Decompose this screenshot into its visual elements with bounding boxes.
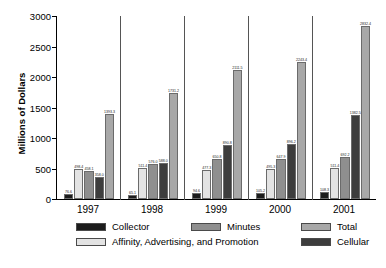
y-tick-mark xyxy=(52,47,57,48)
bar-value-label: 2111.5 xyxy=(232,67,242,71)
legend-item: Affinity, Advertising, and Promotion xyxy=(76,237,258,247)
legend-swatch xyxy=(301,223,331,231)
y-tick-mark xyxy=(52,138,57,139)
x-tick-label-2000: 2000 xyxy=(269,204,291,215)
group-separator xyxy=(312,16,313,200)
bar-minutes-1998: 576.0 xyxy=(148,164,157,199)
bar-minutes-2001: 692.2 xyxy=(340,157,349,199)
bar-affinity-1999: 477.3 xyxy=(202,170,211,199)
bar-affinity-2000: 495.3 xyxy=(266,169,275,199)
legend-label: Minutes xyxy=(227,222,260,232)
x-tick-label-1998: 1998 xyxy=(141,204,163,215)
bar-value-label: 458.1 xyxy=(84,168,93,172)
y-tick-label: 500 xyxy=(35,163,51,174)
bar-collector-1997: 76.6 xyxy=(64,194,73,199)
bar-minutes-1997: 458.1 xyxy=(84,171,93,199)
bar-value-label: 588.0 xyxy=(159,160,168,164)
y-tick-label: 3000 xyxy=(30,11,51,22)
group-separator xyxy=(248,16,249,200)
y-tick-label: 1000 xyxy=(30,133,51,144)
bar-value-label: 692.2 xyxy=(340,154,349,158)
legend-label: Collector xyxy=(112,222,150,232)
bar-affinity-1997: 498.4 xyxy=(74,169,83,199)
bar-collector-1999: 94.6 xyxy=(192,193,201,199)
bar-value-label: 2243.4 xyxy=(296,59,307,63)
bar-total-1998: 1731.2 xyxy=(169,93,178,199)
bar-chart: Millions of Dollars 05001000150020002500… xyxy=(0,0,386,268)
bar-affinity-1998: 511.4 xyxy=(138,168,147,199)
bar-value-label: 511.4 xyxy=(330,165,339,169)
bar-value-label: 650.8 xyxy=(212,156,221,160)
bar-cellular-1999: 890.8 xyxy=(223,145,232,199)
y-tick-label: 2500 xyxy=(30,41,51,52)
bar-minutes-1999: 650.8 xyxy=(212,159,221,199)
bar-value-label: 498.4 xyxy=(74,166,83,170)
bar-cellular-1998: 588.0 xyxy=(159,163,168,199)
bar-value-label: 647.9 xyxy=(276,156,285,160)
bar-value-label: 65.1 xyxy=(129,192,136,196)
bar-value-label: 94.6 xyxy=(193,190,200,194)
y-tick-mark xyxy=(52,77,57,78)
bar-total-2000: 2243.4 xyxy=(297,62,306,199)
chart-legend: CollectorMinutesTotalAffinity, Advertisi… xyxy=(56,222,376,256)
bar-value-label: 105.2 xyxy=(256,190,265,194)
group-separator xyxy=(120,16,121,200)
legend-item: Total xyxy=(301,222,357,232)
y-tick-mark xyxy=(52,199,57,200)
bar-value-label: 890.8 xyxy=(223,142,232,146)
legend-item: Minutes xyxy=(191,222,260,232)
bar-collector-1998: 65.1 xyxy=(128,195,137,199)
y-tick-mark xyxy=(52,108,57,109)
bar-minutes-2000: 647.9 xyxy=(276,159,285,199)
bar-total-1999: 2111.5 xyxy=(233,70,242,199)
bar-collector-2001: 108.3 xyxy=(320,192,329,199)
bar-value-label: 511.4 xyxy=(138,165,147,169)
bar-value-label: 896.2 xyxy=(287,141,296,145)
bar-total-2001: 2832.4 xyxy=(361,26,370,199)
legend-label: Total xyxy=(337,222,357,232)
x-tick-label-2001: 2001 xyxy=(333,204,355,215)
bar-cellular-1997: 358.0 xyxy=(95,177,104,199)
bar-value-label: 1731.2 xyxy=(168,90,179,94)
legend-item: Collector xyxy=(76,222,150,232)
bar-cellular-2001: 1382.5 xyxy=(351,115,360,199)
x-tick-label-1997: 1997 xyxy=(77,204,99,215)
y-tick-label: 1500 xyxy=(30,102,51,113)
bar-value-label: 358.0 xyxy=(95,174,104,178)
legend-label: Affinity, Advertising, and Promotion xyxy=(112,237,258,247)
y-tick-mark xyxy=(52,169,57,170)
y-tick-label: 2000 xyxy=(30,72,51,83)
legend-item: Cellular xyxy=(301,237,369,247)
bar-value-label: 2832.4 xyxy=(360,23,371,27)
bar-value-label: 495.3 xyxy=(266,166,275,170)
plot-area: 050010001500200025003000 76.6498.4458.13… xyxy=(56,16,376,200)
y-axis-title: Millions of Dollars xyxy=(16,59,27,169)
legend-swatch xyxy=(301,238,331,246)
legend-swatch xyxy=(191,223,221,231)
bar-value-label: 1382.5 xyxy=(350,112,361,116)
x-axis-line xyxy=(56,199,376,200)
bar-value-label: 76.6 xyxy=(65,191,72,195)
bar-value-label: 1393.3 xyxy=(104,111,115,115)
bar-total-1997: 1393.3 xyxy=(105,114,114,199)
x-tick-label-1999: 1999 xyxy=(205,204,227,215)
bar-collector-2000: 105.2 xyxy=(256,193,265,199)
legend-swatch xyxy=(76,223,106,231)
legend-label: Cellular xyxy=(337,237,369,247)
bar-cellular-2000: 896.2 xyxy=(287,144,296,199)
legend-swatch xyxy=(76,238,106,246)
y-tick-label: 0 xyxy=(46,194,51,205)
bar-value-label: 477.3 xyxy=(202,167,211,171)
bar-value-label: 108.3 xyxy=(320,189,329,193)
bar-affinity-2001: 511.4 xyxy=(330,168,339,199)
y-tick-mark xyxy=(52,16,57,17)
bar-value-label: 576.0 xyxy=(148,161,157,165)
group-separator xyxy=(184,16,185,200)
